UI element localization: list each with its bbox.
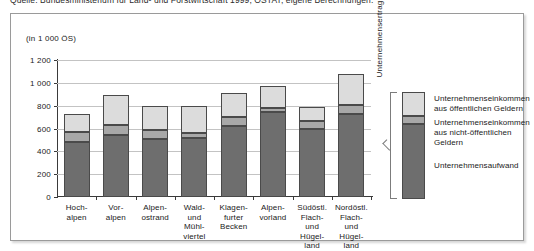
y-tick-label: 1 000 — [30, 78, 51, 87]
bar-segment[interactable] — [338, 105, 364, 114]
x-tick-mark — [253, 196, 254, 200]
units-label: (in 1 000 ÖS) — [26, 34, 76, 43]
bar-segment[interactable] — [338, 74, 364, 105]
bar-segment[interactable] — [142, 130, 168, 139]
x-axis-label: Nordöstl. Flach- und Hügel- land — [329, 203, 374, 251]
bar-segment[interactable] — [64, 114, 90, 132]
bar-group[interactable] — [103, 60, 129, 197]
bar-group[interactable] — [64, 60, 90, 197]
bar-segment[interactable] — [221, 93, 247, 117]
source-caption: Quelle: Bundesministerium für Land- und … — [10, 0, 373, 5]
y-tick-mark — [54, 106, 57, 107]
bar-segment[interactable] — [181, 106, 207, 132]
legend-entry-nonpublic: Unternehmenseinkommen aus nicht-öffentli… — [434, 118, 530, 148]
y-tick-mark — [54, 129, 57, 130]
x-tick-mark — [214, 196, 215, 200]
y-tick-mark — [54, 197, 57, 198]
y-tick-mark — [54, 174, 57, 175]
bar-group[interactable] — [142, 60, 168, 197]
bar-segment[interactable] — [142, 106, 168, 131]
y-tick-label: 400 — [37, 147, 51, 156]
bar-segment[interactable] — [260, 108, 286, 112]
bar-segment[interactable] — [221, 126, 247, 197]
bar-group[interactable] — [338, 60, 364, 197]
bar-segment[interactable] — [103, 125, 129, 135]
legend-entry-public: Unternehmenseinkommen aus öffentlichen G… — [434, 94, 530, 114]
bar-segment[interactable] — [338, 114, 364, 197]
bar-segment[interactable] — [64, 142, 90, 197]
y-tick-mark — [54, 60, 57, 61]
x-tick-mark — [371, 196, 372, 200]
bar-segment[interactable] — [299, 107, 325, 120]
y-tick-mark — [54, 151, 57, 152]
bar-segment[interactable] — [260, 112, 286, 197]
legend-entry-aufwand: Unternehmensaufwand — [434, 161, 519, 171]
bar-segment[interactable] — [299, 129, 325, 198]
x-tick-mark — [293, 196, 294, 200]
x-tick-mark — [332, 196, 333, 200]
y-tick-label: 800 — [37, 101, 51, 110]
bar-segment[interactable] — [221, 117, 247, 126]
legend-swatch — [402, 124, 425, 199]
x-tick-mark — [136, 196, 137, 200]
unternehmensertrag-label: Unternehmensertrag — [375, 0, 387, 92]
figure-frame: (in 1 000 ÖS) 02004006008001 0001 200 Ho… — [10, 13, 524, 241]
legend-swatch — [402, 92, 425, 116]
bar-group[interactable] — [260, 60, 286, 197]
bar-segment[interactable] — [260, 86, 286, 108]
bar-segment[interactable] — [142, 139, 168, 197]
legend-sample-bar — [402, 92, 425, 199]
legend-swatch — [402, 116, 425, 124]
bar-segment[interactable] — [103, 95, 129, 125]
bar-segment[interactable] — [103, 135, 129, 197]
y-tick-label: 200 — [37, 170, 51, 179]
plot-area: 02004006008001 0001 200 — [57, 60, 371, 197]
y-tick-mark — [54, 83, 57, 84]
x-tick-mark — [96, 196, 97, 200]
bar-segment[interactable] — [181, 138, 207, 197]
bar-group[interactable] — [221, 60, 247, 197]
y-tick-label: 1 200 — [30, 56, 51, 65]
x-tick-mark — [175, 196, 176, 200]
bar-segment[interactable] — [299, 121, 325, 129]
bar-group[interactable] — [299, 60, 325, 197]
y-tick-label: 600 — [37, 124, 51, 133]
bar-group[interactable] — [181, 60, 207, 197]
bar-segment[interactable] — [64, 132, 90, 142]
bar-segment[interactable] — [181, 133, 207, 138]
y-tick-label: 0 — [46, 193, 51, 202]
